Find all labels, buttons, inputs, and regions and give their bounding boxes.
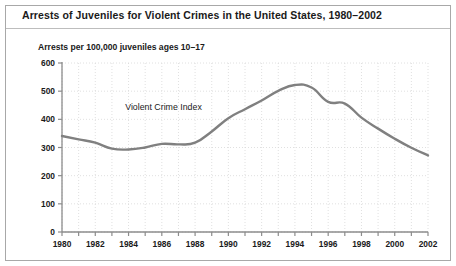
x-tick-label: 1998 bbox=[352, 239, 371, 249]
x-tick-label: 1988 bbox=[186, 239, 205, 249]
chart-figure: Arrests of Juveniles for Violent Crimes … bbox=[0, 0, 456, 266]
y-tick-label: 500 bbox=[41, 86, 55, 96]
y-tick-label: 300 bbox=[41, 143, 55, 153]
x-tick-label: 1980 bbox=[53, 239, 72, 249]
x-tick-label: 1992 bbox=[252, 239, 271, 249]
y-tick-label: 200 bbox=[41, 171, 55, 181]
x-tick-label: 1996 bbox=[319, 239, 338, 249]
x-tick-label: 1984 bbox=[119, 239, 138, 249]
y-tick-label: 600 bbox=[41, 58, 55, 68]
x-tick-label: 1994 bbox=[286, 239, 305, 249]
x-tick-label: 2000 bbox=[385, 239, 404, 249]
y-tick-label: 400 bbox=[41, 114, 55, 124]
x-tick-label: 1986 bbox=[152, 239, 171, 249]
line-chart-plot: 0100200300400500600198019821984198619881… bbox=[0, 0, 456, 266]
series-annotation-label: Violent Crime Index bbox=[125, 102, 202, 112]
y-tick-label: 0 bbox=[50, 227, 55, 237]
x-tick-label: 1990 bbox=[219, 239, 238, 249]
x-tick-label: 1982 bbox=[86, 239, 105, 249]
y-tick-label: 100 bbox=[41, 199, 55, 209]
x-tick-label: 2002 bbox=[419, 239, 438, 249]
